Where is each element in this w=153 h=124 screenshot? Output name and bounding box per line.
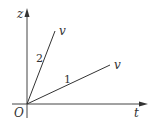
line-1-number-label: 1 [64,73,71,86]
z-t-diagram: z t O 2 v 1 v [0,0,153,124]
line-1-end-label: v [114,58,121,72]
origin-label: O [14,106,24,120]
z-axis-label: z [16,7,24,21]
t-axis-arrow-icon [139,102,148,107]
line-2-number-label: 2 [36,52,43,65]
z-axis-arrow-icon [25,8,30,17]
line-2-end-label: v [59,24,66,38]
t-axis-label: t [134,106,139,120]
